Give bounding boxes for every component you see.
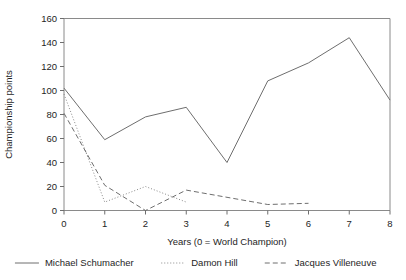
series-line-1 xyxy=(64,94,186,202)
y-tick-label: 0 xyxy=(52,205,57,216)
x-tick-label: 0 xyxy=(61,218,66,229)
y-tick-label: 160 xyxy=(41,13,57,24)
plot-border xyxy=(64,19,390,211)
x-tick-label: 1 xyxy=(102,218,107,229)
y-axis-ticks: 020406080100120140160 xyxy=(41,13,64,216)
series-lines xyxy=(64,38,390,211)
x-tick-label: 8 xyxy=(387,218,392,229)
y-axis-title: Championship points xyxy=(3,70,14,159)
x-tick-label: 5 xyxy=(265,218,270,229)
y-tick-label: 120 xyxy=(41,61,57,72)
series-line-0 xyxy=(64,38,390,163)
y-tick-label: 40 xyxy=(46,157,57,168)
line-chart: 020406080100120140160 012345678 Champion… xyxy=(0,0,406,280)
x-tick-label: 4 xyxy=(224,218,229,229)
series-line-2 xyxy=(64,113,309,210)
y-tick-label: 140 xyxy=(41,37,57,48)
x-axis-title: Years (0 = World Champion) xyxy=(167,236,287,247)
x-tick-label: 6 xyxy=(306,218,311,229)
legend-label-0: Michael Schumacher xyxy=(45,257,134,268)
x-tick-label: 2 xyxy=(143,218,148,229)
x-tick-label: 3 xyxy=(184,218,189,229)
legend-label-1: Damon Hill xyxy=(191,257,237,268)
x-tick-label: 7 xyxy=(347,218,352,229)
chart-legend: Michael SchumacherDamon HillJacques Vill… xyxy=(15,257,376,268)
chart-container: 020406080100120140160 012345678 Champion… xyxy=(0,0,406,280)
y-tick-label: 60 xyxy=(46,133,57,144)
x-axis-ticks: 012345678 xyxy=(61,211,392,229)
legend-label-2: Jacques Villeneuve xyxy=(295,257,377,268)
y-tick-label: 80 xyxy=(46,109,57,120)
plot-frame xyxy=(64,19,390,211)
y-tick-label: 100 xyxy=(41,85,57,96)
y-tick-label: 20 xyxy=(46,181,57,192)
